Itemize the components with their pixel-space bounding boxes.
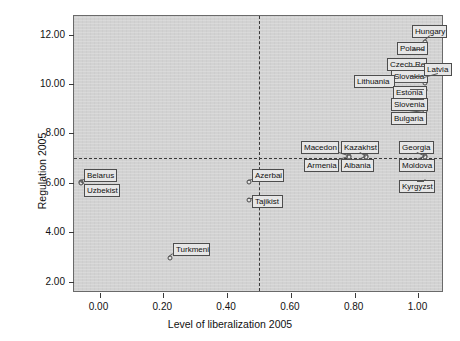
x-axis-title: Level of liberalization 2005 [168,318,292,330]
country-label-box: Armenia [304,159,339,172]
country-label-box: Turkmeni [173,243,210,256]
x-tick [227,293,228,298]
country-label-box: Macedon [301,141,339,154]
country-label-box: Belarus [84,169,117,182]
country-label-box: Uzbekist [84,184,120,197]
country-label-box: Azerbai [252,169,284,182]
x-tick-label: 0.60 [280,301,299,312]
country-label-box: Latvia [424,63,452,76]
y-tick [69,232,74,233]
x-tick-label: 0.20 [153,301,172,312]
x-tick-label: 1.00 [408,301,427,312]
x-tick [291,293,292,298]
x-tick [418,293,419,298]
label-leader-line [407,66,424,67]
y-tick-label: 6.00 [46,176,65,187]
country-label-box: Tajikist [252,195,283,208]
plot-area [73,15,443,292]
country-label-box: Albania [341,159,374,172]
label-leader-line [413,49,425,50]
label-leader-line [410,99,425,100]
y-tick-label: 2.00 [46,275,65,286]
x-tick [355,293,356,298]
y-tick-label: 10.00 [40,78,65,89]
y-axis-title: Regulation 2005 [36,132,48,208]
y-tick [69,84,74,85]
y-tick-label: 8.00 [46,127,65,138]
country-label-box: Bulgaria [391,112,427,125]
y-tick-label: 4.00 [46,226,65,237]
x-tick-label: 0.00 [89,301,108,312]
country-label-box: Lithuania [354,75,395,88]
label-leader-line [410,76,425,77]
x-tick [100,293,101,298]
y-tick [69,35,74,36]
x-tick [163,293,164,298]
country-label-box: Moldova [399,159,435,172]
label-leader-line [395,82,424,83]
reference-line-horizontal [74,158,442,159]
y-tick-label: 12.00 [40,28,65,39]
scatter-plot-figure: Regulation 2005 HungaryPolandCzech ReSlo… [0,0,460,341]
x-tick-label: 0.40 [216,301,235,312]
x-tick-label: 0.80 [344,301,363,312]
label-leader-line [410,89,424,90]
y-tick [69,133,74,134]
y-tick [69,183,74,184]
label-leader-line [417,181,424,182]
reference-line-vertical [259,16,260,291]
y-tick [69,282,74,283]
label-leader-line [248,198,252,199]
